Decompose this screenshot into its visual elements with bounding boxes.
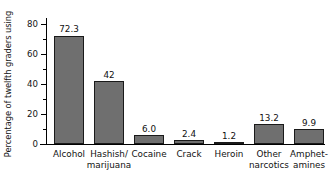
y-tick-label: 60 [16,49,38,59]
y-tick-label: 20 [16,109,38,119]
y-axis-title-text: Percentage of twelfth graders using [3,11,13,157]
x-category-label: Amphet- amines [285,149,329,170]
y-tick-major [41,144,46,145]
x-category-label-line2: marijuana [85,160,133,171]
y-tick-label: 80 [16,19,38,29]
x-category-label-line1: Cocaine [131,149,166,159]
y-tick-major [41,54,46,55]
bar-value-label: 13.2 [254,113,284,123]
x-category-label-line1: Other [257,149,282,159]
bar-value-label: 6.0 [134,124,164,134]
bar [54,36,84,145]
x-category-label-line2: amines [285,160,329,171]
bar-value-label: 72.3 [54,24,84,34]
bar-value-label: 1.2 [214,131,244,141]
bar [134,135,164,144]
bar [214,142,244,144]
bar [294,129,324,144]
bar [254,124,284,144]
y-tick-major [41,24,46,25]
plot-area: 0 20 40 60 80 72.3 42 6.0 2.4 1.2 13.2 9… [46,18,325,145]
bar-value-label: 42 [94,70,124,80]
y-tick-minor [43,39,46,40]
bar [94,81,124,144]
y-tick-major [41,114,46,115]
bar [174,140,204,144]
y-tick-minor [43,69,46,70]
y-axis-line [46,18,47,145]
y-tick-minor [43,99,46,100]
x-axis-line [40,144,325,145]
x-category-label-line1: Amphet- [290,149,328,159]
y-tick-major [41,84,46,85]
bar-value-label: 2.4 [174,129,204,139]
x-category-label-line1: Heroin [215,149,244,159]
y-tick-minor [43,129,46,130]
x-category-label-line1: Hashish/ [90,149,128,159]
y-axis-title: Percentage of twelfth graders using [0,0,16,168]
bar-chart: Percentage of twelfth graders using 0 20… [0,0,329,186]
x-category-label-line1: Alcohol [53,149,85,159]
bar-value-label: 9.9 [294,118,324,128]
y-tick-label: 0 [16,139,38,149]
x-category-label-line1: Crack [176,149,201,159]
y-tick-label: 40 [16,79,38,89]
